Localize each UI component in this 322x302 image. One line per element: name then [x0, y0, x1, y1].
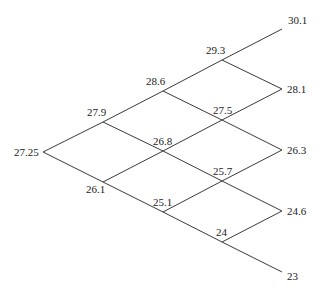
tree-edges: [43, 29, 282, 272]
node-value-label: 29.3: [206, 44, 226, 56]
tree-edge: [163, 212, 222, 242]
node-value-label: 28.6: [146, 75, 166, 87]
binomial-tree-diagram: 27.2527.926.128.626.825.129.327.525.7243…: [0, 0, 322, 302]
node-value-label: 24: [216, 226, 228, 238]
node-value-label: 26.1: [86, 183, 105, 195]
node-value-label: 30.1: [288, 14, 307, 26]
tree-node-labels: 27.2527.926.128.626.825.129.327.525.7243…: [14, 14, 307, 282]
tree-edge: [222, 120, 282, 150]
node-value-label: 26.3: [287, 144, 307, 156]
node-value-label: 27.9: [87, 106, 107, 118]
tree-edge: [222, 60, 282, 89]
tree-edge: [163, 60, 222, 91]
tree-edge: [222, 181, 282, 211]
node-value-label: 24.6: [287, 205, 307, 217]
node-value-label: 27.5: [213, 104, 233, 116]
node-value-label: 26.8: [153, 135, 173, 147]
tree-edge: [222, 211, 282, 242]
tree-edge: [222, 242, 282, 272]
node-value-label: 25.7: [213, 165, 233, 177]
node-value-label: 25.1: [153, 196, 172, 208]
node-value-label: 27.25: [14, 146, 39, 158]
node-value-label: 28.1: [287, 83, 306, 95]
tree-edge: [103, 91, 163, 122]
tree-edge: [43, 122, 103, 152]
tree-edge: [222, 29, 282, 60]
tree-edge: [43, 152, 103, 182]
node-value-label: 23: [287, 270, 299, 282]
tree-edge: [103, 151, 163, 182]
